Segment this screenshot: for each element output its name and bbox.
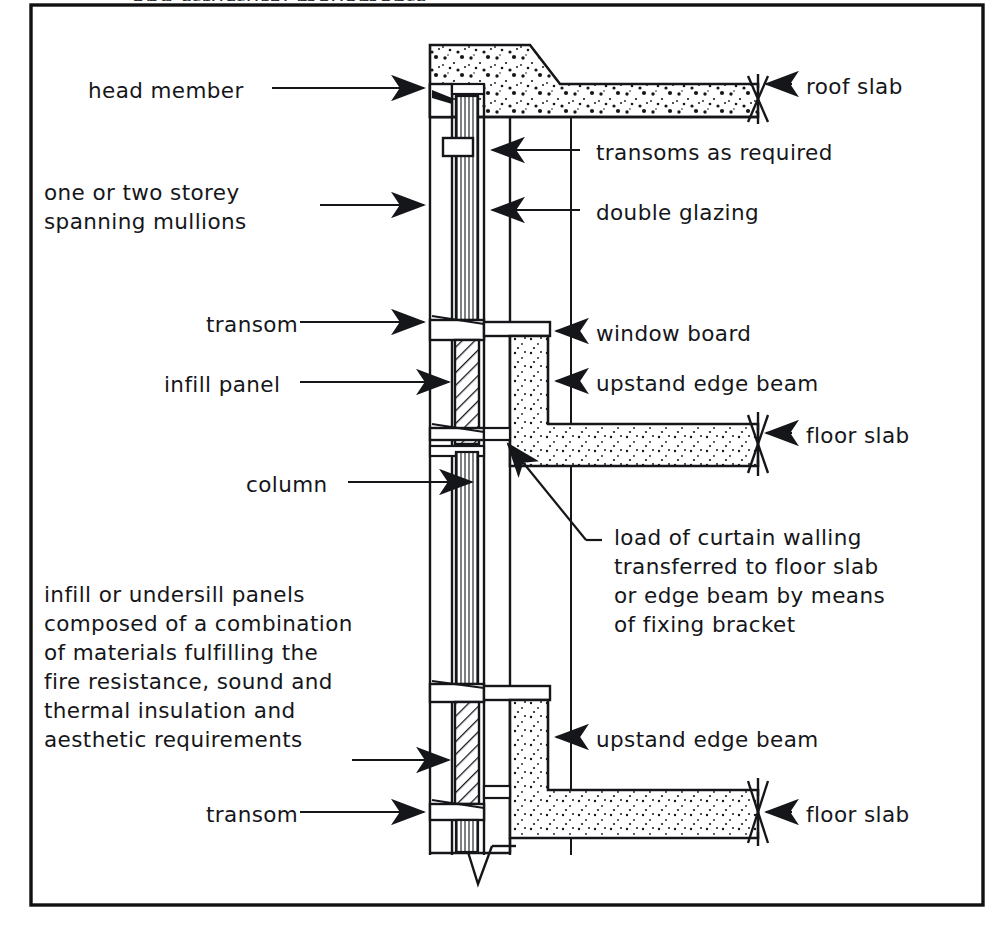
label-infill-undersill-panels-note: infill or undersill panels composed of a… <box>44 580 353 754</box>
label-double-glazing: double glazing <box>596 198 759 227</box>
label-upstand-edge-beam-lower: upstand edge beam <box>596 725 819 754</box>
figure-title-clipped: and structural movements. <box>132 0 434 1</box>
double-glazing-middle <box>456 452 478 684</box>
label-one-or-two-storey-spanning-mullions: one or two storey spanning mullions <box>44 178 247 236</box>
label-infill-panel: infill panel <box>164 370 280 399</box>
label-transom-bottom: transom <box>206 800 298 829</box>
figure-border <box>31 5 983 905</box>
double-glazing-upper <box>456 96 478 320</box>
infill-panel-lower-shape <box>455 702 479 804</box>
label-transom-mid: transom <box>206 310 298 339</box>
label-transoms-as-required: transoms as required <box>596 138 833 167</box>
label-floor-slab-lower: floor slab <box>806 800 910 829</box>
label-column: column <box>246 470 328 499</box>
section-drawing <box>0 0 998 932</box>
label-window-board: window board <box>596 319 751 348</box>
base-detail-shape <box>430 820 516 884</box>
figure-canvas: and structural movements. head member on… <box>0 0 998 932</box>
upstand-edge-beam-upper-shape <box>510 336 758 466</box>
label-floor-slab-upper: floor slab <box>806 421 910 450</box>
label-head-member: head member <box>88 76 244 105</box>
mullion-spine <box>430 84 571 855</box>
label-roof-slab: roof slab <box>806 72 903 101</box>
label-load-transfer-note: load of curtain walling transferred to f… <box>614 523 885 639</box>
label-upstand-edge-beam-upper: upstand edge beam <box>596 369 819 398</box>
upstand-edge-beam-lower-shape <box>510 700 758 838</box>
transom-intermediate-shape <box>443 138 473 156</box>
